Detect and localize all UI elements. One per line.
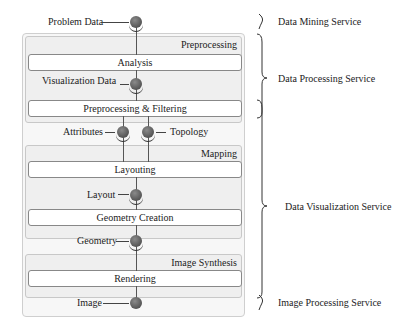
leader-line — [105, 132, 115, 133]
leader-line — [120, 84, 129, 85]
leader-line — [118, 194, 129, 195]
label-geometry: Geometry — [77, 235, 117, 246]
service-braces — [255, 0, 285, 325]
socket-icon — [129, 25, 143, 32]
service-data-visualization: Data Visualization Service — [285, 201, 391, 212]
group-label-preprocessing: Preprocessing — [181, 39, 237, 50]
leader-line — [103, 303, 129, 304]
process-geometry-creation: Geometry Creation — [28, 209, 242, 226]
leader-line — [116, 241, 129, 242]
label-problem-data: Problem Data — [48, 16, 103, 27]
process-layouting: Layouting — [28, 161, 242, 178]
label-image: Image — [77, 297, 102, 308]
group-label-mapping: Mapping — [201, 148, 237, 159]
process-preprocessing-filtering: Preprocessing & Filtering — [28, 100, 242, 117]
leader-line — [101, 22, 129, 23]
group-label-image-synthesis: Image Synthesis — [171, 257, 237, 268]
service-image-processing: Image Processing Service — [278, 297, 381, 308]
label-layout: Layout — [87, 189, 115, 200]
service-data-mining: Data Mining Service — [278, 16, 361, 27]
process-analysis: Analysis — [28, 54, 242, 71]
label-topology: Topology — [170, 126, 208, 137]
data-node-image — [130, 297, 142, 309]
label-visualization-data: Visualization Data — [42, 75, 116, 86]
leader-line — [156, 132, 166, 133]
service-data-processing: Data Processing Service — [278, 73, 375, 84]
label-attributes: Attributes — [63, 126, 103, 137]
process-rendering: Rendering — [28, 270, 242, 287]
